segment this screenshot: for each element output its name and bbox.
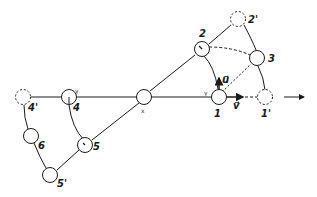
node-5p <box>43 168 58 183</box>
label-2: 2 <box>199 28 206 39</box>
label-1: 1 <box>214 108 221 119</box>
node-x <box>137 90 152 105</box>
node-1p <box>258 90 273 105</box>
label-1p: 1' <box>261 108 271 119</box>
node-6 <box>24 129 39 144</box>
arc-3-1p <box>258 66 265 90</box>
bar-x-5 <box>92 103 139 140</box>
label-3: 3 <box>268 53 275 64</box>
label-5p: 5' <box>57 178 67 189</box>
label-5: 5 <box>93 141 100 152</box>
bar-5-5p <box>57 150 79 170</box>
label-2p: 2' <box>248 14 258 25</box>
node-1 <box>212 90 227 105</box>
linkage-diagram: 1 1' 2 2' 3 4 4' x 5 5' 6 γ γ u⃗ v⃗ <box>0 0 317 197</box>
bar-2-2p <box>209 25 231 44</box>
dashed-arc-2-3 <box>209 47 250 55</box>
label-vector-v: v⃗ <box>233 100 240 111</box>
arc-1-2 <box>204 56 218 89</box>
label-gamma-1: γ <box>204 89 208 97</box>
label-6: 6 <box>38 140 45 151</box>
bar-x-2 <box>150 55 195 91</box>
node-3 <box>250 51 265 66</box>
label-4p: 4' <box>27 102 38 113</box>
arc-2p-3 <box>244 25 256 50</box>
label-vector-u: u⃗ <box>222 74 229 85</box>
node-2p <box>231 12 246 27</box>
label-4: 4 <box>72 102 80 113</box>
label-x: x <box>141 107 145 114</box>
label-gamma-4: γ <box>75 87 79 95</box>
